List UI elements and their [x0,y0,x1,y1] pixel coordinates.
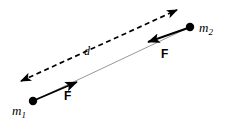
mass2-subscript: 2 [208,27,213,37]
mass2-point [186,23,194,31]
mass1-symbol: m [12,103,21,118]
mass1-label: m1 [12,104,26,117]
gravitation-diagram: m1 m2 d F F [0,0,225,123]
distance-label: d [84,45,90,57]
mass1-subscript: 1 [21,110,26,120]
mass2-symbol: m [199,20,208,35]
force-label-mass1: F [64,90,71,102]
mass2-label: m2 [199,21,213,34]
force-label-mass2: F [161,48,168,60]
force-arrow-mass2 [148,28,188,42]
diagram-canvas [0,0,225,123]
mass1-point [29,97,37,105]
